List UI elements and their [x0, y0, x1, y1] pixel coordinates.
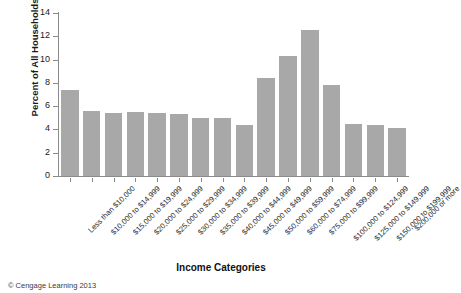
y-axis-tick-label: 2 — [24, 147, 50, 157]
x-axis-tick — [288, 178, 289, 182]
y-axis-tick — [53, 176, 58, 177]
copyright-credit: © Cengage Learning 2013 — [8, 281, 96, 290]
bar — [170, 114, 187, 176]
y-axis-tick-label: 0 — [24, 170, 50, 180]
bar — [192, 118, 209, 176]
bar — [323, 85, 340, 176]
x-axis-tick — [114, 178, 115, 182]
y-axis-tick — [53, 153, 58, 154]
x-axis-tick — [397, 178, 398, 182]
x-axis-title: Income Categories — [0, 262, 442, 273]
bar — [279, 56, 296, 176]
x-axis-tick — [223, 178, 224, 182]
bar — [148, 113, 165, 176]
bar — [257, 78, 274, 176]
bar — [301, 30, 318, 176]
y-axis-tick-label: 14 — [24, 7, 50, 17]
x-axis-tick — [201, 178, 202, 182]
x-axis-tick — [135, 178, 136, 182]
y-axis-tick — [53, 106, 58, 107]
x-axis-tick — [266, 178, 267, 182]
x-axis-labels: Less than $10,000$10,000 to $14,999$15,0… — [59, 178, 419, 256]
y-axis-tick-label: 8 — [24, 77, 50, 87]
bar — [214, 118, 231, 176]
y-axis-tick — [53, 129, 58, 130]
y-axis-tick — [53, 83, 58, 84]
bar — [367, 125, 384, 176]
y-axis-tick-label: 4 — [24, 123, 50, 133]
x-axis-line — [58, 176, 409, 177]
bar — [388, 128, 405, 176]
plot-area — [59, 13, 408, 176]
x-axis-tick — [92, 178, 93, 182]
x-axis-tick — [332, 178, 333, 182]
bar — [83, 111, 100, 176]
bar — [345, 124, 362, 176]
x-axis-tick — [179, 178, 180, 182]
x-axis-tick — [157, 178, 158, 182]
x-axis-tick — [70, 178, 71, 182]
y-axis-tick-label: 6 — [24, 100, 50, 110]
x-axis-tick — [353, 178, 354, 182]
bar — [127, 112, 144, 176]
bar — [61, 90, 78, 176]
bar — [105, 113, 122, 176]
x-axis-tick — [375, 178, 376, 182]
y-axis-tick — [53, 36, 58, 37]
y-axis-tick-label: 12 — [24, 30, 50, 40]
x-axis-tick — [244, 178, 245, 182]
x-axis-tick — [310, 178, 311, 182]
y-axis-tick-label: 10 — [24, 54, 50, 64]
bar — [236, 125, 253, 176]
y-axis-tick — [53, 60, 58, 61]
y-axis-tick — [53, 13, 58, 14]
